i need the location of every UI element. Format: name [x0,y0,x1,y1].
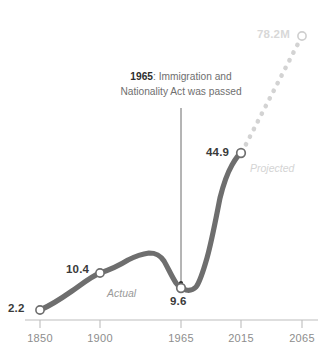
data-point-marker-1850[interactable] [36,306,44,314]
x-tick-label-2065: 2065 [289,333,315,344]
point-label-1965: 9.6 [170,296,187,308]
x-tick-label-2015: 2015 [228,333,254,344]
x-tick-label-1965: 1965 [168,333,194,344]
policy-annotation: 1965: Immigration and Nationality Act wa… [120,70,241,100]
chart-canvas [0,0,332,358]
policy-annotation-line-1: 1965: Immigration and [120,70,241,85]
data-point-marker-1900[interactable] [96,269,104,277]
point-label-1900: 10.4 [66,264,89,276]
policy-annotation-year: 1965 [130,71,153,82]
point-label-2065: 78.2M [257,29,290,41]
actual-series-label: Actual [107,288,136,299]
immigration-population-line-chart: 2.2 10.4 9.6 44.9 78.2M Actual Projected… [0,0,332,358]
x-tick-label-1900: 1900 [87,333,113,344]
data-point-marker-2015[interactable] [237,149,246,158]
data-point-marker-1965[interactable] [177,284,186,293]
policy-annotation-rest: : Immigration and [153,71,232,82]
point-label-1850: 2.2 [8,303,25,315]
x-tick-label-1850: 1850 [27,333,53,344]
policy-annotation-line-2: Nationality Act was passed [120,85,241,100]
data-point-marker-2065[interactable] [298,32,306,40]
actual-series-line [40,153,241,310]
projected-series-label: Projected [250,163,294,174]
point-label-2015: 44.9 [206,147,229,159]
projected-series-line [242,36,302,152]
